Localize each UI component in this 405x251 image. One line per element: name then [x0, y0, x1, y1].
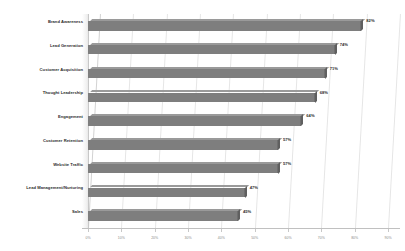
bar-front-face	[88, 21, 361, 31]
bar-front-face	[88, 116, 301, 126]
bar-value-label: 57%	[283, 137, 291, 142]
bar-front-face	[88, 140, 278, 150]
bar-side-face	[335, 43, 337, 55]
category-axis-line	[82, 228, 400, 229]
x-tick-mark	[321, 229, 322, 232]
bar-front-face	[88, 188, 245, 198]
bar	[88, 90, 317, 102]
bar-row: Lead Generation74%	[0, 38, 405, 61]
category-label: Lead Generation	[0, 43, 83, 48]
bar-side-face	[325, 67, 327, 79]
bar-front-face	[88, 93, 315, 103]
bar-front-face	[88, 69, 325, 79]
bar-front-face	[88, 164, 278, 174]
x-axis-tick-label: 70%	[309, 236, 333, 240]
x-axis-tick-label: 60%	[276, 236, 300, 240]
category-label: Thought Leadership	[0, 90, 83, 95]
x-tick-mark	[355, 229, 356, 232]
category-label: Website Traffic	[0, 162, 83, 167]
bar-value-label: 74%	[340, 42, 348, 47]
bar-row: Customer Retention57%	[0, 133, 405, 156]
bar-value-label: 82%	[366, 18, 374, 23]
bar-value-label: 47%	[250, 185, 258, 190]
x-tick-mark	[288, 229, 289, 232]
bar-value-label: 64%	[306, 113, 314, 118]
x-tick-mark	[88, 229, 89, 232]
bar	[88, 19, 364, 31]
bar-row: Sales45%	[0, 204, 405, 227]
x-axis-tick-label: 20%	[143, 236, 167, 240]
x-tick-mark	[188, 229, 189, 232]
bar-side-face	[238, 209, 240, 221]
x-axis-tick-label: 90%	[376, 236, 400, 240]
bar	[88, 67, 327, 79]
bar	[88, 43, 337, 55]
bar-row: Customer Acquisition71%	[0, 62, 405, 85]
x-tick-mark	[155, 229, 156, 232]
bar	[88, 138, 280, 150]
x-axis-tick-label: 0%	[76, 236, 100, 240]
category-label: Brand Awareness	[0, 19, 83, 24]
bar	[88, 162, 280, 174]
bar-side-face	[278, 138, 280, 150]
x-axis-tick-label: 50%	[243, 236, 267, 240]
bar	[88, 209, 240, 221]
category-label: Customer Retention	[0, 138, 83, 143]
bar	[88, 185, 247, 197]
bar-row: Lead Management/Nurturing47%	[0, 180, 405, 203]
x-tick-mark	[388, 229, 389, 232]
bar-side-face	[245, 185, 247, 197]
bar-row: Website Traffic57%	[0, 157, 405, 180]
bar-row: Engagement64%	[0, 109, 405, 132]
x-tick-mark	[221, 229, 222, 232]
x-axis-tick-label: 80%	[343, 236, 367, 240]
x-axis-tick-label: 10%	[109, 236, 133, 240]
bar-value-label: 71%	[330, 66, 338, 71]
bar-value-label: 45%	[243, 209, 251, 214]
bar-side-face	[278, 162, 280, 174]
bar-chart: 0%10%20%30%40%50%60%70%80%90%Brand Aware…	[0, 0, 405, 251]
bar-value-label: 57%	[283, 161, 291, 166]
bar-side-face	[315, 90, 317, 102]
bar-front-face	[88, 45, 335, 55]
bar-row: Thought Leadership68%	[0, 85, 405, 108]
bar-value-label: 68%	[320, 90, 328, 95]
category-label: Customer Acquisition	[0, 67, 83, 72]
category-label: Engagement	[0, 114, 83, 119]
bar-row: Brand Awareness82%	[0, 14, 405, 37]
x-axis-tick-label: 30%	[176, 236, 200, 240]
category-label: Sales	[0, 209, 83, 214]
x-tick-mark	[255, 229, 256, 232]
bar	[88, 114, 304, 126]
x-axis-tick-label: 40%	[209, 236, 233, 240]
x-tick-mark	[121, 229, 122, 232]
bar-front-face	[88, 211, 238, 221]
category-label: Lead Management/Nurturing	[0, 185, 83, 190]
